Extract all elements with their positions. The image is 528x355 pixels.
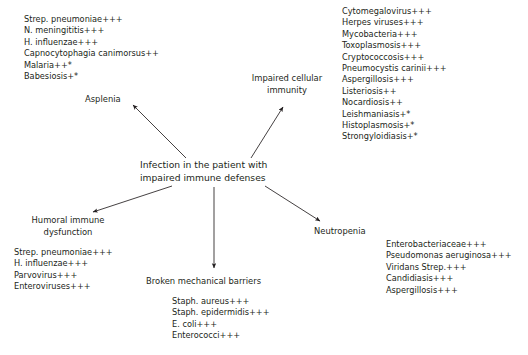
- neutropenia-organism-item: Pseudomonas aeruginosa+++: [386, 250, 512, 260]
- barriers-organism-item: Staph. epidermidis+++: [172, 307, 270, 317]
- center-node-line1: Infection in the patient with: [140, 159, 267, 170]
- neutropenia-label-text: Neutropenia: [314, 226, 366, 236]
- neutropenia-organism-item: Aspergillosis+++: [386, 285, 458, 295]
- cellular-organism-item: Toxoplasmosis+++: [342, 40, 421, 50]
- cellular-organism-item: Listeriosis++: [342, 86, 397, 96]
- cellular-organism-item: Histoplasmosis+*: [342, 120, 414, 130]
- branch-label-neutropenia: Neutropenia: [314, 226, 366, 238]
- barriers-organism-item: Staph. aureus+++: [172, 296, 249, 306]
- barriers-organism-item: Enterococci+++: [172, 330, 240, 340]
- cellular-organism-item: Leishmaniasis+*: [342, 109, 410, 119]
- center-node-text: Infection in the patient withimpaired im…: [140, 158, 267, 184]
- asplenia-organism-item: Babesiosis+*: [24, 71, 78, 81]
- arrow-to-asplenia: [133, 105, 186, 158]
- cellular-organism-item: Mycobacteria+++: [342, 29, 418, 39]
- humoral-organism-item: Strep. pneumoniae+++: [14, 247, 113, 257]
- branch-label-impaired-cellular-immunity: Impaired cellularimmunity: [240, 73, 334, 96]
- cellular-organism-item: Strongyloidiasis+*: [342, 131, 418, 141]
- asplenia-organism-item: H. influenzae+++: [24, 37, 98, 47]
- humoral-organism-item: Enteroviruses+++: [14, 281, 91, 291]
- cellular-organism-item: Herpes viruses+++: [342, 17, 424, 27]
- asplenia-organism-list: Strep. pneumoniae+++N. meningititis+++H.…: [24, 14, 159, 82]
- asplenia-label-text: Asplenia: [85, 94, 121, 104]
- neutropenia-organism-item: Candidiasis+++: [386, 273, 453, 283]
- neutropenia-organism-list: Enterobacteriaceae+++Pseudomonas aerugin…: [386, 239, 512, 296]
- branch-label-asplenia: Asplenia: [85, 94, 121, 106]
- humoral-organism-list: Strep. pneumoniae+++H. influenzae+++Parv…: [14, 247, 113, 293]
- barriers-label-text: Broken mechanical barriers: [146, 276, 261, 286]
- barriers-organism-list: Staph. aureus+++Staph. epidermidis+++E. …: [172, 296, 270, 342]
- cellular-organism-item: Pneumocystis carinii+++: [342, 63, 447, 73]
- barriers-organism-item: E. coli+++: [172, 319, 217, 329]
- branch-label-humoral-immune-dysfunction: Humoral immunedysfunction: [16, 215, 120, 238]
- humoral-organism-item: H. influenzae+++: [14, 258, 88, 268]
- cellular-organism-item: Nocardiosis++: [342, 97, 403, 107]
- branch-label-broken-mechanical-barriers: Broken mechanical barriers: [146, 276, 261, 288]
- cellular-label-line1: Impaired cellular: [252, 73, 322, 83]
- cellular-immunity-organism-list: Cytomegalovirus+++Herpes viruses+++Mycob…: [342, 6, 447, 143]
- center-node-line2: impaired immune defenses: [140, 172, 266, 183]
- arrow-to-impaired-cellular-immunity: [251, 107, 283, 158]
- cellular-label-line2: immunity: [267, 85, 307, 95]
- cellular-organism-item: Cryptococcosis+++: [342, 52, 424, 62]
- asplenia-organism-item: N. meningititis+++: [24, 25, 104, 35]
- humoral-label-line1: Humoral immune: [32, 215, 105, 225]
- immunodeficiency-infection-diagram: Strep. pneumoniae+++N. meningititis+++H.…: [0, 0, 528, 355]
- asplenia-organism-item: Malaria++*: [24, 60, 72, 70]
- humoral-organism-item: Parvovirus+++: [14, 270, 77, 280]
- humoral-label-line2: dysfunction: [44, 227, 93, 237]
- asplenia-organism-item: Capnocytophagia canimorsus++: [24, 48, 159, 58]
- arrow-to-humoral-immune-dysfunction: [93, 186, 172, 212]
- cellular-organism-item: Aspergillosis+++: [342, 74, 414, 84]
- cellular-organism-item: Cytomegalovirus+++: [342, 6, 432, 16]
- neutropenia-organism-item: Enterobacteriaceae+++: [386, 239, 487, 249]
- asplenia-organism-item: Strep. pneumoniae+++: [24, 14, 123, 24]
- neutropenia-organism-item: Viridans Strep.+++: [386, 262, 467, 272]
- arrow-to-neutropenia: [265, 186, 320, 221]
